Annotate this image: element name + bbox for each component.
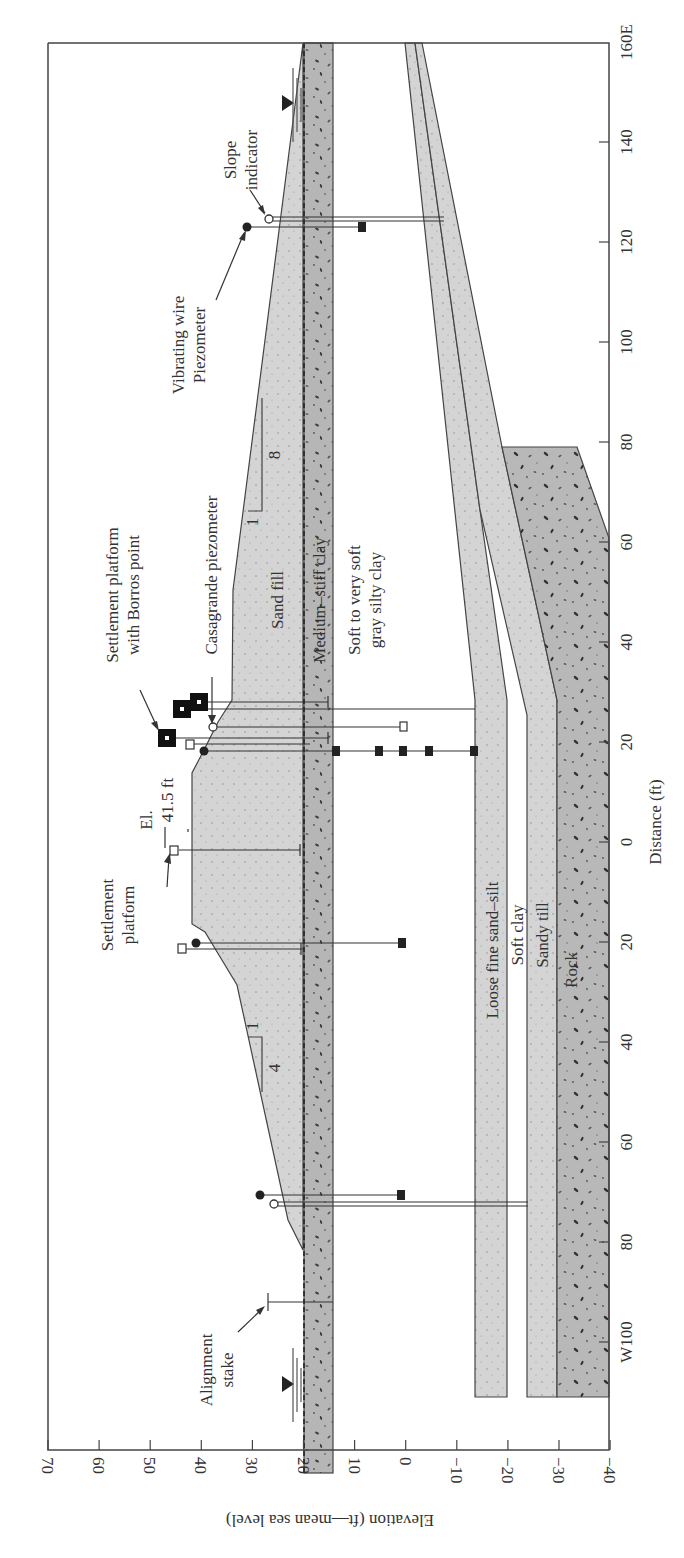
label-sand-fill: Sand fill [268,571,287,629]
label-settlement-borros-2: with Borros point [124,535,143,655]
label-settlement-borros-1: Settlement platform [103,527,122,663]
label-slope-indicator-2: indicator [242,129,261,190]
label-soft-clay-1: Soft to very soft [345,545,364,655]
label-crest-el-2: 41.5 ft [158,778,177,823]
elevation-tick-label: −20 [498,1457,517,1484]
distance-tick-label: 0 [617,838,636,847]
elevation-tick-label: 50 [140,1457,159,1474]
elevation-tick-label: 30 [242,1457,261,1474]
medium-stiff-clay-layer [304,43,333,1473]
label-medium-stiff-clay: Medium–stiff clay [310,537,329,663]
label-crest-el-1: El. [137,810,156,829]
elevation-tick-label: 40 [191,1457,210,1474]
elevation-tick-label: 10 [345,1457,364,1474]
label-alignment-stake-1: Alignment [197,1333,216,1406]
label-casagrande: Casagrande piezometer [202,495,221,654]
label-loose-sand-silt: Loose fine sand–silt [483,881,502,1018]
elevation-tick-label: 20 [294,1457,313,1474]
distance-tick-label: 60 [617,1134,636,1151]
distance-tick-label: 80 [617,434,636,451]
label-slope-east-8: 8 [265,451,284,460]
distance-axis-title: Distance (ft) [646,779,665,864]
distance-tick-label: 60 [617,534,636,551]
water-table-west-icon [282,1348,301,1422]
label-slope-east-1: 1 [243,518,262,527]
embankment-cross-section: 706050403020100−10−20−30−40 160E14012010… [0,0,684,1558]
label-settlement-platform-1: Settlement [98,878,117,951]
label-soft-clay: Soft clay [508,904,527,965]
distance-tick-label: 80 [617,1234,636,1251]
label-sandy-till: Sandy till [533,902,552,968]
label-settlement-platform-2: platform [119,886,138,945]
distance-tick-label: 40 [617,1034,636,1051]
label-rock: Rock [562,952,581,988]
distance-tick-label: 140 [617,129,636,155]
elevation-tick-label: −40 [600,1457,619,1484]
elevation-axis-title: Elevation (ft—mean sea level) [226,1511,434,1530]
label-slope-indicator-1: Slope [221,141,240,180]
distance-tick-label: W100 [617,1321,636,1363]
distance-tick-label: 100 [617,329,636,355]
label-slope-west-4: 4 [265,1063,284,1072]
label-vibrating-wire-2: Piezometer [190,306,209,383]
distance-tick-label: 120 [617,229,636,255]
elevation-tick-label: −30 [549,1457,568,1484]
label-slope-west-1: 1 [243,1022,262,1031]
elevation-tick-label: 60 [89,1457,108,1474]
distance-tick-label: 160E [617,24,636,60]
label-soft-clay-2: gray silty clay [366,551,385,648]
distance-tick-label: 20 [617,734,636,751]
elevation-tick-label: −10 [447,1457,466,1484]
elevation-tick-label: 0 [396,1457,415,1466]
elevation-tick-label: 70 [38,1457,57,1474]
distance-tick-label: 40 [617,634,636,651]
label-vibrating-wire-1: Vibrating wire [169,296,188,395]
distance-tick-label: 20 [617,934,636,951]
label-alignment-stake-2: stake [218,1353,237,1388]
